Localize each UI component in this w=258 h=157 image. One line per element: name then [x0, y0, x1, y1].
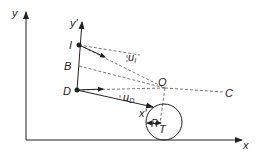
world-y-label: y	[11, 7, 19, 19]
diagram-canvas: y x y' x' I B D O C T R uI uD	[0, 0, 258, 157]
dashed-B-O	[79, 66, 165, 88]
dashed-O-C	[165, 88, 224, 92]
label-O: O	[158, 76, 167, 88]
world-x-label: x	[242, 139, 249, 151]
label-B: B	[64, 60, 71, 72]
label-R: R	[151, 118, 158, 129]
point-D	[75, 88, 80, 93]
point-I	[77, 43, 82, 48]
local-y-label: y'	[69, 17, 79, 29]
local-y-axis	[77, 22, 82, 90]
label-I: I	[69, 39, 72, 51]
dashed-O-T	[160, 88, 165, 123]
label-D: D	[63, 85, 71, 97]
diagram-svg: y x y' x' I B D O C T R uI uD	[0, 0, 258, 157]
local-x-label: x'	[138, 107, 148, 119]
vector-u-I	[79, 45, 105, 57]
label-u-I: uI	[128, 51, 136, 64]
label-C: C	[225, 87, 233, 99]
dashed-lines	[77, 45, 224, 123]
local-x-axis	[77, 90, 153, 107]
label-T: T	[159, 123, 167, 135]
label-u-D: uD	[123, 91, 134, 104]
